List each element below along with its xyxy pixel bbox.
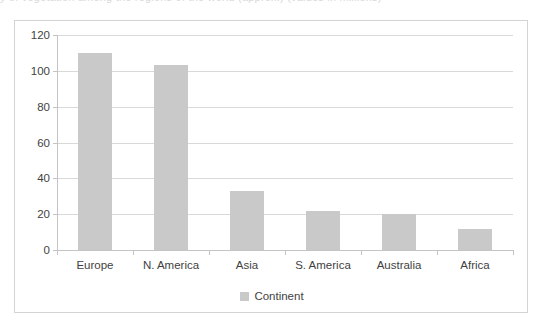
legend-label-continent: Continent	[254, 290, 303, 302]
bar-europe[interactable]	[78, 53, 112, 250]
y-axis-label-80: 80	[37, 101, 50, 113]
x-tick-mark	[285, 250, 286, 255]
x-axis-label-asia: Asia	[236, 259, 258, 271]
x-axis-label-n-america: N. America	[143, 259, 199, 271]
cut-off-caption-text: y of vegetation among the regions of the…	[0, 0, 545, 5]
y-axis-label-20: 20	[37, 208, 50, 220]
bar-asia[interactable]	[230, 191, 264, 250]
bar-africa[interactable]	[458, 229, 492, 251]
y-axis-label-120: 120	[31, 29, 50, 41]
bar-s-america[interactable]	[306, 211, 340, 250]
y-axis-label-40: 40	[37, 172, 50, 184]
bar-slot	[285, 35, 361, 250]
x-tick-mark	[437, 250, 438, 255]
bars-group	[57, 35, 513, 250]
plot-area: 120100806040200 EuropeN. AmericaAsiaS. A…	[57, 35, 513, 250]
bar-slot	[361, 35, 437, 250]
x-tick-mark	[57, 250, 58, 255]
bar-australia[interactable]	[382, 214, 416, 250]
bar-slot	[209, 35, 285, 250]
x-tick-mark	[133, 250, 134, 255]
x-axis-label-australia: Australia	[377, 259, 422, 271]
bar-n-america[interactable]	[154, 65, 188, 250]
bar-slot	[133, 35, 209, 250]
y-axis-label-100: 100	[31, 65, 50, 77]
x-axis-label-europe: Europe	[76, 259, 113, 271]
x-tick-mark	[209, 250, 210, 255]
chart-legend: Continent	[15, 290, 529, 302]
bar-slot	[57, 35, 133, 250]
x-axis-label-africa: Africa	[460, 259, 489, 271]
x-tick-mark	[361, 250, 362, 255]
x-axis-label-s-america: S. America	[295, 259, 351, 271]
y-axis-label-0: 0	[44, 244, 50, 256]
bar-slot	[437, 35, 513, 250]
y-axis-label-60: 60	[37, 137, 50, 149]
chart-container: 120100806040200 EuropeN. AmericaAsiaS. A…	[14, 20, 528, 313]
x-tick-mark	[513, 250, 514, 255]
legend-swatch-continent	[240, 292, 249, 301]
